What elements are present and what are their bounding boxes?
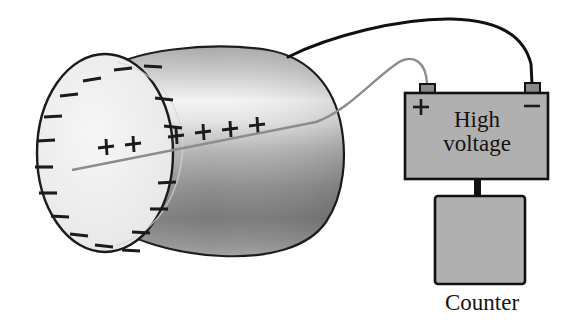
diagram-canvas xyxy=(0,0,583,325)
cylinder-tube xyxy=(37,47,344,257)
high-voltage-line-2: voltage xyxy=(428,132,526,156)
counter-label: Counter xyxy=(432,291,532,315)
high-voltage-label: High voltage xyxy=(428,108,526,156)
counter-lead xyxy=(474,179,481,197)
counter-box xyxy=(435,196,525,284)
geiger-tube-diagram: High voltage Counter xyxy=(0,0,583,325)
high-voltage-line-1: High xyxy=(428,108,526,132)
cathode-lead-wire xyxy=(288,19,532,84)
